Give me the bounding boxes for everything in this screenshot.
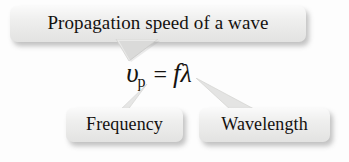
callout-wavelength-label: Wavelength xyxy=(221,114,308,135)
callout-frequency: Frequency xyxy=(66,108,183,142)
callout-propagation-speed: Propagation speed of a wave xyxy=(10,6,306,42)
formula-variable-f: f xyxy=(173,58,181,89)
callout-propagation-speed-label: Propagation speed of a wave xyxy=(47,12,268,34)
formula-subscript-p: p xyxy=(138,73,146,91)
formula-propagation-speed: υp=fλ xyxy=(104,58,214,96)
callout-frequency-label: Frequency xyxy=(86,114,163,135)
callout-wavelength: Wavelength xyxy=(199,108,330,142)
formula-operator-equals: = xyxy=(154,61,168,88)
diagram-canvas: Propagation speed of a wave υp=fλ Freque… xyxy=(0,0,349,162)
formula-variable-lambda: λ xyxy=(181,59,192,89)
